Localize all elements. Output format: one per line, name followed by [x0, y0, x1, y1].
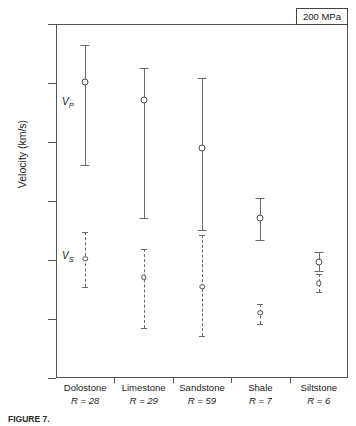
error-cap-lower — [256, 240, 265, 241]
error-cap-lower — [81, 165, 90, 166]
y-tick-mark — [48, 24, 56, 25]
error-cap-lower — [198, 230, 207, 231]
error-bar-vp-limestone — [144, 68, 145, 218]
data-point-vs-shale — [258, 310, 264, 316]
error-bar-vp-sandstone — [202, 78, 203, 230]
error-cap-upper — [82, 232, 88, 233]
data-point-vs-dolostone — [82, 256, 88, 262]
data-point-vp-limestone — [140, 97, 147, 104]
y-tick-mark — [48, 378, 56, 379]
error-cap-upper — [256, 198, 265, 199]
data-point-vs-sandstone — [199, 284, 205, 290]
series-label-vs: VS — [62, 250, 74, 264]
error-cap-lower — [139, 218, 148, 219]
error-cap-lower — [316, 292, 322, 293]
data-point-vp-sandstone — [199, 144, 206, 151]
error-cap-lower — [314, 271, 323, 272]
error-cap-lower — [82, 287, 88, 288]
caption-label: FIGURE 7. — [8, 414, 50, 424]
error-cap-upper — [199, 235, 205, 236]
data-point-vp-shale — [257, 215, 264, 222]
figure-container: Velocity (km/s) 7.56.55.54.53.52.51.5 Do… — [0, 0, 356, 426]
data-point-vs-limestone — [141, 274, 147, 280]
y-tick-mark — [48, 319, 56, 320]
y-tick-mark — [48, 260, 56, 261]
error-cap-upper — [314, 252, 323, 253]
error-cap-upper — [139, 68, 148, 69]
error-cap-upper — [198, 78, 207, 79]
y-axis-title: Velocity (km/s) — [16, 99, 28, 209]
error-bar-vp-dolostone — [85, 45, 86, 165]
data-point-vs-siltstone — [316, 280, 322, 286]
error-cap-lower — [141, 328, 147, 329]
error-cap-upper — [316, 274, 322, 275]
y-tick-mark — [48, 201, 56, 202]
pressure-annotation: 200 MPa — [296, 8, 348, 25]
category-count: R = 6 — [280, 395, 356, 408]
error-cap-upper — [257, 304, 263, 305]
category-name: Siltstone — [280, 382, 356, 395]
y-tick-mark — [48, 142, 56, 143]
error-cap-lower — [257, 324, 263, 325]
data-point-vp-siltstone — [315, 258, 322, 265]
error-bar-vs-limestone — [144, 249, 145, 329]
figure-caption: FIGURE 7. — [8, 414, 348, 426]
data-point-vp-dolostone — [82, 78, 89, 85]
series-label-vp: VP — [62, 96, 74, 110]
error-cap-upper — [141, 249, 147, 250]
error-cap-upper — [81, 45, 90, 46]
x-category-siltstone: SiltstoneR = 6 — [280, 382, 356, 407]
error-cap-lower — [199, 336, 205, 337]
y-tick-mark — [48, 83, 56, 84]
